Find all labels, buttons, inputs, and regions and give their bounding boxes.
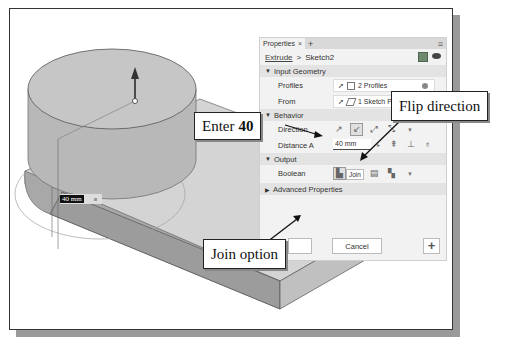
chevron-down-icon[interactable]: ▼ — [407, 171, 413, 177]
close-icon[interactable]: × — [298, 40, 302, 47]
chevron-right-icon[interactable]: ▸ — [377, 141, 380, 148]
section-advanced-properties[interactable]: ▶ Advanced Properties — [260, 183, 446, 195]
to-extent-icon[interactable]: ⊥ — [405, 139, 416, 150]
callout-enter-40: Enter40 — [194, 112, 261, 140]
join-icon[interactable]: ▙ — [333, 167, 346, 180]
ok-button[interactable] — [288, 238, 312, 254]
collapse-triangle-icon: ▼ — [265, 112, 271, 118]
new-solid-icon[interactable]: ▚ — [386, 168, 397, 179]
panel-button-row: Cancel + — [260, 235, 446, 255]
section-input-geometry[interactable]: ▼ Input Geometry — [260, 65, 446, 77]
collapse-triangle-icon: ▼ — [265, 156, 271, 162]
breadcrumb: Extrude > Sketch2 — [260, 49, 446, 65]
expand-triangle-icon: ▶ — [265, 186, 270, 193]
figure-frame: 40 mm Properties × + ≡ Extrude > Sketch2… — [9, 8, 453, 330]
through-all-icon[interactable]: ♁ — [422, 139, 433, 150]
profile-icon — [347, 82, 355, 90]
eye-icon[interactable] — [432, 53, 441, 59]
breadcrumb-extrude[interactable]: Extrude — [265, 53, 293, 62]
join-tooltip: Join — [346, 169, 364, 180]
symmetric-direction-icon[interactable]: ⤢ — [369, 124, 380, 135]
direction-row: Direction ↗ ↙ ⤢ ⤡ ▼ — [260, 121, 446, 137]
direction-default-icon[interactable]: ↗ — [333, 124, 344, 135]
callout-join-option: Join option — [203, 239, 286, 269]
breadcrumb-separator: > — [297, 53, 302, 62]
add-tab-icon[interactable]: + — [308, 39, 313, 49]
collapse-triangle-icon: ▼ — [265, 68, 271, 74]
chevron-down-icon[interactable]: ▼ — [407, 127, 413, 133]
callout-flip-direction: Flip direction — [391, 91, 488, 121]
clear-selection-icon[interactable] — [422, 83, 428, 89]
select-cursor-icon: ➚ — [338, 82, 344, 90]
distance-a-input[interactable]: 40 mm — [333, 139, 371, 150]
sketch-plane-icon — [346, 98, 357, 106]
dimension-grip-icon — [94, 198, 97, 201]
distance-row: Distance A 40 mm ▸ ⇞ ⊥ ♁ — [260, 137, 446, 153]
flip-direction-icon[interactable]: ↙ — [350, 123, 363, 136]
preset-cube-icon[interactable] — [418, 52, 428, 62]
properties-panel: Properties × + ≡ Extrude > Sketch2 ▼ Inp… — [259, 37, 447, 261]
distance-extent-icon[interactable]: ⇞ — [388, 139, 399, 150]
apply-add-button[interactable]: + — [423, 238, 440, 254]
asymmetric-direction-icon[interactable]: ⤡ — [386, 124, 397, 135]
tab-properties[interactable]: Properties × — [260, 38, 305, 49]
distance-dimension-input[interactable]: 40 mm — [60, 194, 102, 204]
cancel-button[interactable]: Cancel — [332, 238, 382, 254]
panel-tab-bar: Properties × + ≡ — [260, 38, 446, 49]
select-cursor-icon: ➚ — [338, 98, 344, 106]
intersect-icon[interactable]: ▤ — [369, 168, 380, 179]
menu-icon[interactable]: ≡ — [438, 39, 443, 49]
section-output[interactable]: ▼ Output — [260, 153, 446, 165]
boolean-row: Boolean ▙ ▭ ▤ ▚ ▼ Join — [260, 165, 446, 181]
breadcrumb-sketch: Sketch2 — [305, 53, 334, 62]
